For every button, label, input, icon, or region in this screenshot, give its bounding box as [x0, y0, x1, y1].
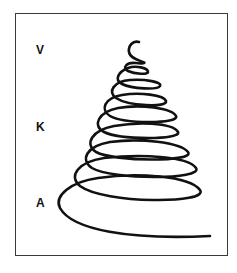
- spiral-stroke: [59, 42, 210, 237]
- spiral-drawing: [0, 0, 237, 273]
